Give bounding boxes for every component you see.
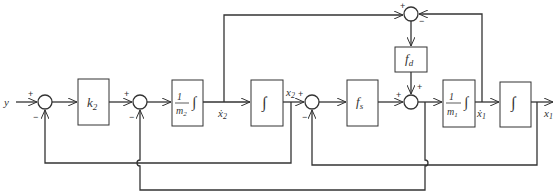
m1-num: 1 [449, 91, 454, 102]
sign: − [302, 112, 307, 122]
sign: + [28, 89, 33, 99]
sign: + [298, 89, 303, 99]
inv-m1-integrator-block [443, 80, 475, 127]
sum-junction-top [404, 7, 418, 21]
x2-label: x2 [285, 86, 295, 100]
integral-sign: ∫ [191, 94, 198, 111]
x1dot-label: ẋ1 [476, 107, 486, 121]
fd-label: fd [405, 51, 414, 68]
sign: + [417, 82, 422, 92]
m2-den: m2 [176, 105, 187, 118]
sign: − [33, 112, 38, 122]
x2dot-label: ẋ2 [217, 107, 227, 121]
sign: + [124, 89, 129, 99]
integrator-block-2 [500, 82, 531, 127]
k2-label: k2 [87, 95, 98, 112]
sign: − [129, 112, 134, 122]
integrator-block-1 [251, 80, 283, 126]
sum-junction-4 [404, 95, 418, 109]
sign: + [400, 1, 405, 11]
sum-junction-2 [133, 95, 147, 109]
integral-sign: ∫ [261, 94, 268, 113]
sum-junction-3 [305, 95, 319, 109]
sum-junction-1 [38, 95, 52, 109]
m2-num: 1 [177, 91, 182, 102]
integral-sign: ∫ [463, 94, 470, 111]
input-label: y [3, 96, 9, 108]
m1-den: m1 [447, 106, 458, 119]
sign: − [419, 16, 424, 26]
fs-label: fs [356, 94, 364, 111]
sign: + [396, 90, 401, 100]
block-diagram: y + − + − + − + + + − k2 1 m2 ∫ ∫ fs fd … [0, 0, 557, 196]
x1-label: x1 [543, 107, 553, 121]
integral-sign: ∫ [510, 94, 517, 113]
